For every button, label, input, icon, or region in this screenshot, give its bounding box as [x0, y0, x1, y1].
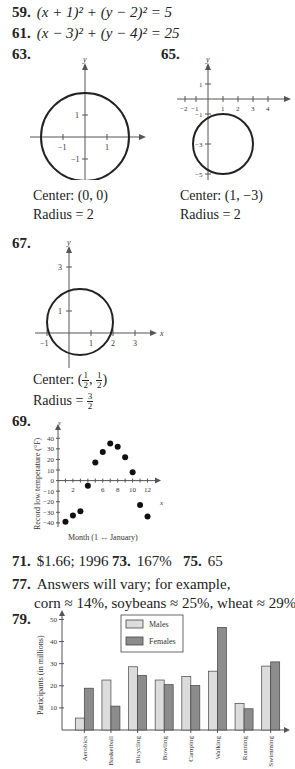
y-tick-label: 30 [47, 445, 55, 453]
data-point [145, 514, 151, 520]
bar-males [235, 703, 244, 730]
y-tick-label: −20 [43, 498, 54, 506]
y-arrow-icon [205, 63, 211, 70]
answer-number: 77. [12, 576, 31, 592]
y-label: y [82, 55, 87, 64]
y-label: y [66, 238, 71, 247]
data-point [130, 469, 136, 475]
bar-chart-79: Participants (in millions) 1020304050Aer… [30, 610, 295, 769]
data-point [85, 483, 91, 489]
x-label: x [149, 133, 150, 142]
tick-label: −5 [195, 171, 203, 179]
y-arrow-icon [66, 246, 72, 253]
x-tick-label: 12 [144, 486, 152, 494]
y-tick-label: 10 [50, 704, 58, 712]
answer-number: 75. [183, 553, 202, 569]
bar-females [244, 709, 253, 730]
y-tick-label: 20 [47, 456, 55, 464]
graph-65: y −2 −1 1 2 3 4 1 −1 −3 −5 [175, 55, 295, 185]
tick-label: 1 [105, 143, 109, 152]
x-tick-label: 10 [129, 486, 137, 494]
x-tick-label: Swimming [267, 736, 275, 767]
tick-label: 1 [199, 81, 203, 89]
center-label: Center: [33, 372, 78, 387]
bar-males [102, 680, 111, 730]
data-point [107, 441, 113, 447]
tick-label: 2 [111, 339, 115, 348]
radius-label: Radius = [33, 393, 87, 408]
x-tick-label: 2 [71, 486, 75, 494]
data-point [137, 502, 143, 508]
answer-77: 77.Answers will vary; for example, [12, 576, 230, 593]
y-axis-label: Record low temperature (°F) [33, 437, 42, 530]
bar-males [155, 680, 164, 730]
bar-females [84, 688, 93, 730]
radius-65: Radius = 2 [180, 207, 241, 223]
y-tick-label: 0 [51, 477, 55, 485]
bar-males [129, 667, 138, 730]
legend: Males Females [121, 615, 183, 652]
denominator: 2 [96, 381, 103, 390]
answer-59: 59.(x + 1)² + (y − 2)² = 5 [12, 4, 172, 21]
answer-number: 79. [12, 611, 31, 627]
x-tick-label: Basketball [107, 736, 115, 766]
x-tick-label: 6 [101, 486, 105, 494]
x-arrow-icon [139, 134, 146, 140]
tick-label: 4 [266, 105, 270, 113]
answer-75: 75.65 [183, 553, 223, 570]
x-arrow-icon [284, 96, 291, 102]
answer-number: 59. [12, 4, 31, 20]
tick-label: −1 [40, 339, 49, 348]
y-axis-label: Participants (in millions) [36, 635, 45, 715]
tick-label: −2 [180, 105, 188, 113]
answer-text: $1.66; 1996 [37, 553, 109, 569]
bar-females [271, 662, 280, 730]
bar-females [217, 627, 226, 730]
y-label: y [205, 55, 210, 64]
bar-females [111, 706, 120, 730]
answer-text: 167% [137, 553, 172, 569]
tick-label: −3 [195, 141, 203, 149]
legend-swatch-males [126, 620, 143, 628]
tick-label: 2 [236, 105, 240, 113]
graph-63: x y −1 1 1 −1 [25, 55, 150, 180]
fraction: 32 [87, 392, 94, 411]
data-point [77, 508, 83, 514]
center-63: Center: (0, 0) [33, 188, 108, 204]
tick-label: 1 [75, 111, 79, 120]
answer-number: 61. [12, 25, 31, 41]
bar-females [191, 686, 200, 730]
data-point [122, 454, 128, 460]
data-point [70, 512, 76, 518]
answer-text: Answers will vary; for example, [37, 576, 231, 592]
x-tick-label: Running [241, 736, 249, 761]
x-axis-label: Month (1 ↔ January) [68, 533, 138, 542]
y-arrow-icon [59, 610, 65, 616]
data-point [115, 444, 121, 450]
x-arrow-icon [284, 727, 290, 733]
tick-label: −1 [58, 143, 67, 152]
center-67: Center: (12, 12) [33, 371, 107, 390]
bar-males [75, 718, 84, 730]
y-tick-label: 30 [50, 660, 58, 668]
answer-text: 65 [208, 553, 223, 569]
tick-label: 1 [89, 339, 93, 348]
legend-label-females: Females [149, 637, 176, 646]
y-tick-label: 40 [50, 638, 58, 646]
x-tick-label: 8 [116, 486, 120, 494]
y-tick-label: 10 [47, 467, 55, 475]
y-arrow-icon [82, 63, 88, 70]
answer-number: 71. [12, 553, 31, 569]
y-tick-label: −30 [43, 509, 54, 517]
bar-males [208, 671, 217, 730]
y-tick-label: 40 [47, 435, 55, 443]
answer-text: (x + 1)² + (y − 2)² = 5 [37, 4, 172, 20]
x-tick-label: Bicycling [134, 736, 142, 764]
radius-63: Radius = 2 [33, 207, 94, 223]
x-tick-label: Aerobics [81, 736, 89, 762]
tick-label: 3 [251, 105, 255, 113]
center-65: Center: (1, −3) [180, 188, 263, 204]
data-point [62, 519, 68, 525]
x-arrow-icon [150, 330, 157, 336]
bar-males [182, 676, 191, 730]
